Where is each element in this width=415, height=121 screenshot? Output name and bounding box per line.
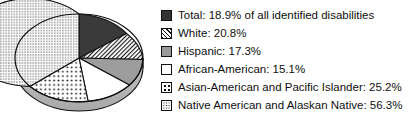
legend-swatch-native-american-icon [161, 100, 172, 111]
legend-item-african-american: African-American: 15.1% [161, 60, 415, 78]
pie-chart-figure: Total: 18.9% of all identified disabilit… [0, 0, 415, 121]
legend-swatch-asian-american-icon [161, 82, 172, 93]
pie-chart-graphic [0, 0, 160, 121]
legend-swatch-white-icon [161, 28, 172, 39]
pie-slices [0, 0, 143, 102]
legend-item-white: White: 20.8% [161, 24, 415, 42]
legend-label-white: White: 20.8% [178, 27, 246, 39]
legend-swatch-african-american-icon [161, 64, 172, 75]
legend-item-native-american: Native American and Alaskan Native: 56.3… [161, 96, 415, 114]
legend-label-native-american: Native American and Alaskan Native: 56.3… [178, 99, 402, 111]
legend-item-total: Total: 18.9% of all identified disabilit… [161, 6, 415, 24]
legend-label-asian-american: Asian-American and Pacific Islander: 25.… [178, 81, 402, 93]
legend-swatch-hispanic-icon [161, 46, 172, 57]
legend-label-hispanic: Hispanic: 17.3% [178, 45, 261, 57]
legend-swatch-total-icon [161, 10, 172, 21]
legend-label-total: Total: 18.9% of all identified disabilit… [178, 9, 374, 21]
pie-svg [0, 0, 160, 121]
legend-item-hispanic: Hispanic: 17.3% [161, 42, 415, 60]
legend-item-asian-american: Asian-American and Pacific Islander: 25.… [161, 78, 415, 96]
legend-label-african-american: African-American: 15.1% [178, 63, 305, 75]
chart-legend: Total: 18.9% of all identified disabilit… [161, 6, 415, 114]
